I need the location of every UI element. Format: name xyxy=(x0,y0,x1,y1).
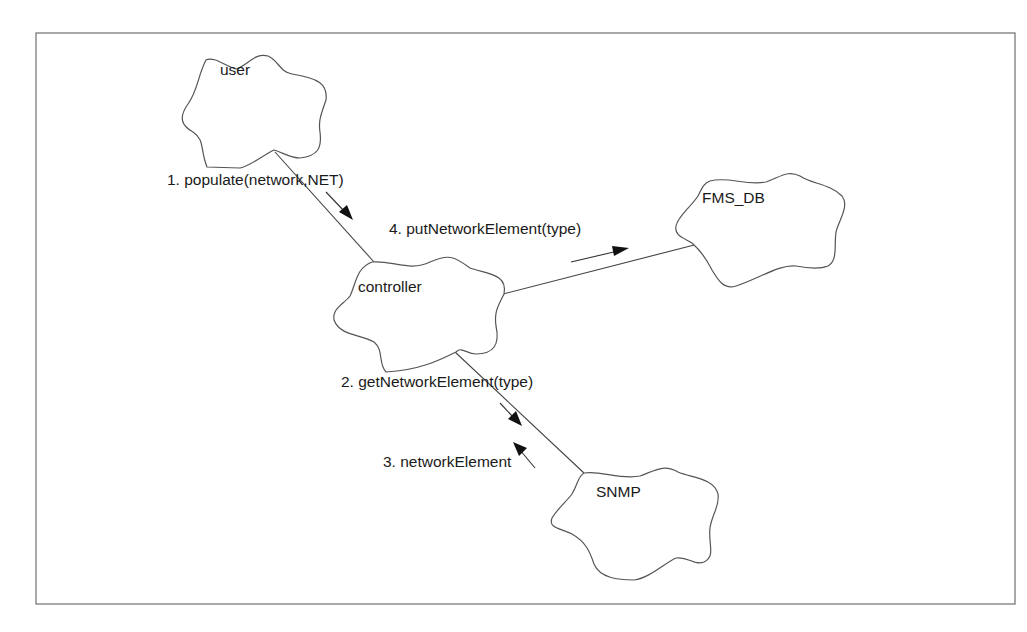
diagram-canvas: user controller FMS_DB SNMP 1. populate(… xyxy=(0,0,1027,632)
object-label-controller: controller xyxy=(358,278,422,295)
message-arrow-3 xyxy=(513,442,535,468)
arrowhead-icon xyxy=(513,442,527,456)
cloud-shape-user xyxy=(182,55,326,168)
object-label-fmsdb: FMS_DB xyxy=(702,189,765,206)
object-user[interactable]: user xyxy=(182,55,326,168)
cloud-shape-controller xyxy=(334,257,505,372)
message-arrow-2 xyxy=(500,403,522,426)
message-label-4: 4. putNetworkElement(type) xyxy=(389,220,581,237)
arrowhead-icon xyxy=(612,246,629,256)
message-label-1: 1. populate(network,NET) xyxy=(167,171,344,188)
message-arrow-1 xyxy=(326,192,353,220)
link-user-controller xyxy=(275,152,374,262)
object-fms-db[interactable]: FMS_DB xyxy=(676,174,845,287)
object-controller[interactable]: controller xyxy=(334,257,505,372)
object-label-snmp: SNMP xyxy=(596,483,641,500)
link-controller-fmsdb xyxy=(503,243,702,294)
message-label-2: 2. getNetworkElement(type) xyxy=(341,373,533,390)
message-arrow-4 xyxy=(571,246,629,262)
object-label-user: user xyxy=(220,61,250,78)
message-label-3: 3. networkElement xyxy=(383,453,512,470)
object-snmp[interactable]: SNMP xyxy=(551,468,718,580)
